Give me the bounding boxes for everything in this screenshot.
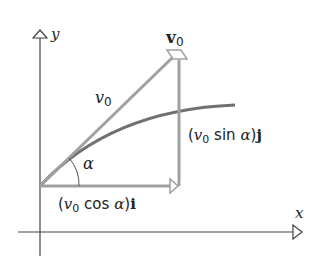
x-axis-arrowhead-icon (293, 225, 302, 239)
x-axis (18, 225, 302, 239)
y-axis (33, 30, 47, 256)
angle-label: α (83, 154, 94, 173)
horizontal-arrowhead-icon (170, 179, 178, 193)
vertical-component-label: (v0 sin α)j (188, 126, 262, 146)
horizontal-component-label: (v0 cos α)i (58, 195, 136, 215)
velocity-arrowhead-icon (167, 50, 187, 59)
velocity-vector-label: v0 (165, 27, 184, 49)
y-axis-label: y (50, 25, 60, 43)
y-axis-arrowhead-icon (33, 30, 47, 38)
x-axis-label: x (295, 204, 304, 222)
speed-label: v0 (95, 88, 112, 109)
projectile-diagram: y x v0 v0 α (v0 cos α)i (v0 sin α)j (0, 0, 319, 271)
velocity-vector (40, 58, 172, 186)
angle-arc (69, 158, 79, 186)
